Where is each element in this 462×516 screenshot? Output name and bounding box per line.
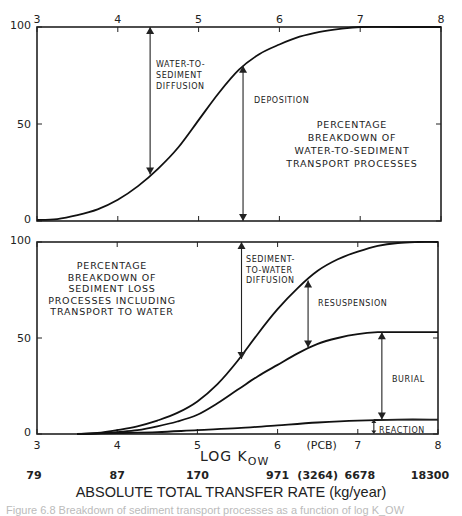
arrowhead bbox=[378, 413, 386, 420]
transfer-rate-label: 87 bbox=[110, 469, 125, 482]
series-line-2 bbox=[77, 332, 438, 434]
transfer-rate-label: 170 bbox=[186, 469, 209, 482]
figure: 345678050100 WATER-TO-SEDIMENTDIFFUSIOND… bbox=[0, 0, 462, 516]
y-tick-label: 100 bbox=[10, 19, 31, 32]
y-tick-label: 50 bbox=[17, 332, 31, 345]
transfer-rate-label: 18300 bbox=[411, 469, 450, 482]
arrowhead bbox=[378, 332, 386, 339]
annotation-label: RESUSPENSION bbox=[318, 299, 387, 308]
panel-label-line: PROCESSES INCLUDING bbox=[48, 295, 176, 306]
y-tick-label: 0 bbox=[24, 213, 31, 226]
y-tick-label: 100 bbox=[10, 234, 31, 247]
arrowhead bbox=[239, 214, 247, 221]
annotation-label: BURIAL bbox=[392, 375, 425, 384]
transfer-rate-label: 971 bbox=[266, 469, 289, 482]
annotation-label: DEPOSITION bbox=[254, 96, 309, 105]
pcb-marker-label: (PCB) bbox=[306, 439, 336, 452]
bottom-panel: 345678050100(PCB) SEDIMENT-TO-WATERDIFFU… bbox=[10, 234, 442, 468]
top-panel: 345678050100 WATER-TO-SEDIMENTDIFFUSIOND… bbox=[10, 13, 445, 226]
x-axis-title: LOG KOW bbox=[200, 448, 269, 468]
arrowhead bbox=[146, 27, 154, 34]
x-tick-label: 3 bbox=[34, 439, 41, 452]
transfer-rate-label: 79 bbox=[26, 469, 41, 482]
annotation-label: REACTION bbox=[379, 426, 425, 435]
annotation-label: SEDIMENT bbox=[156, 71, 202, 80]
panel-label-line: WATER-TO-SEDIMENT bbox=[294, 145, 409, 156]
secondary-axis-title: ABSOLUTE TOTAL TRANSFER RATE (kg/year) bbox=[76, 484, 387, 500]
annotation-label: TO-WATER bbox=[245, 266, 293, 275]
panel-label-line: TRANSPORT PROCESSES bbox=[285, 158, 417, 169]
panel-label-line: SEDIMENT LOSS bbox=[68, 283, 155, 294]
x-tick-label: 3 bbox=[34, 13, 41, 26]
annotation-label: SEDIMENT- bbox=[246, 255, 295, 264]
x-tick-label: 4 bbox=[114, 439, 121, 452]
x-tick-label: 6 bbox=[274, 439, 281, 452]
panel-label-line: PERCENTAGE bbox=[317, 119, 387, 130]
y-tick-label: 50 bbox=[17, 118, 31, 131]
annotation-label: WATER-TO- bbox=[156, 60, 205, 69]
transfer-rate-label: 6678 bbox=[344, 469, 375, 482]
panel-label-line: PERCENTAGE bbox=[77, 260, 147, 271]
x-tick-label: 8 bbox=[435, 439, 442, 452]
x-tick-label: 6 bbox=[276, 13, 283, 26]
arrowhead bbox=[238, 242, 246, 249]
transfer-rate-label: (3264) bbox=[297, 469, 338, 482]
panel-label-line: TRANSPORT TO WATER bbox=[49, 306, 173, 317]
annotation-label: DIFFUSION bbox=[246, 276, 295, 285]
x-tick-label: 8 bbox=[438, 13, 445, 26]
panel-label-line: BREAKDOWN OF bbox=[308, 132, 397, 143]
panel-label-line: BREAKDOWN OF bbox=[68, 272, 157, 283]
x-tick-label: 5 bbox=[195, 13, 202, 26]
figure-caption: Figure 6.8 Breakdown of sediment transpo… bbox=[6, 504, 405, 516]
x-tick-label: 4 bbox=[114, 13, 121, 26]
y-tick-label: 0 bbox=[24, 426, 31, 439]
x-tick-label: 7 bbox=[354, 439, 361, 452]
annotation-label: DIFFUSION bbox=[156, 82, 205, 91]
x-tick-label: 7 bbox=[357, 13, 364, 26]
